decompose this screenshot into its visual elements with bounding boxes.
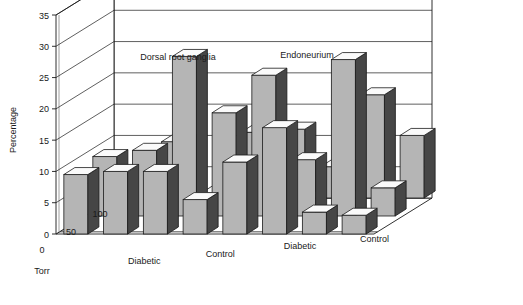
bar-3d [223, 155, 258, 234]
bar-3d [302, 205, 337, 234]
depth-tick-label: 50 [66, 227, 76, 237]
bar-side-face [196, 49, 207, 216]
bar-chart-3d: 05101520253035Percentage100500TorrDiabet… [0, 0, 523, 305]
bar-side-face [88, 168, 99, 234]
section-label-1: Endoneurium [280, 50, 334, 60]
category-axis-labels: DiabeticControlDiabeticControl [128, 234, 389, 267]
bar-front-face [183, 200, 207, 234]
depth-tick-label: 100 [92, 209, 107, 219]
section-label-0: Dorsal root ganglia [140, 52, 216, 62]
y-tick-label: 5 [44, 198, 49, 208]
bar-front-face [331, 60, 355, 216]
y-tick-label: 0 [44, 230, 49, 240]
depth-axis-title: Torr [34, 266, 50, 276]
category-label-1: Control [206, 249, 235, 259]
bar-side-face [167, 164, 178, 234]
y-tick-label: 20 [39, 104, 49, 114]
bar-3d [342, 208, 377, 234]
bar-front-face [143, 171, 167, 234]
depth-tick-label: 0 [39, 245, 44, 255]
bar-3d [183, 193, 218, 234]
y-tick-label: 30 [39, 42, 49, 52]
y-tick-label: 25 [39, 73, 49, 83]
bar-3d [263, 121, 298, 234]
category-label-0: Diabetic [128, 256, 161, 266]
y-tick-label: 10 [39, 167, 49, 177]
bar-side-face [424, 128, 435, 198]
y-tick-label: 35 [39, 11, 49, 21]
bar-3d [331, 53, 366, 216]
y-tick-label: 15 [39, 136, 49, 146]
bar-side-face [355, 53, 366, 216]
bar-3d [143, 164, 178, 234]
category-label-2: Diabetic [284, 241, 317, 251]
bar-3d [104, 164, 139, 234]
category-label-3: Control [360, 234, 389, 244]
bar-front-face [302, 212, 326, 234]
bar-front-face [263, 128, 287, 234]
bar-front-face [223, 162, 247, 234]
bar-front-face [64, 175, 88, 234]
y-axis-title: Percentage [8, 107, 18, 153]
bar-side-face [287, 121, 298, 234]
bar-side-face [128, 164, 139, 234]
bar-front-face [342, 215, 366, 234]
bar-side-face [247, 155, 258, 234]
chart-container: 05101520253035Percentage100500TorrDiabet… [0, 0, 523, 305]
bar-3d [64, 168, 99, 234]
bar-front-face [104, 171, 128, 234]
